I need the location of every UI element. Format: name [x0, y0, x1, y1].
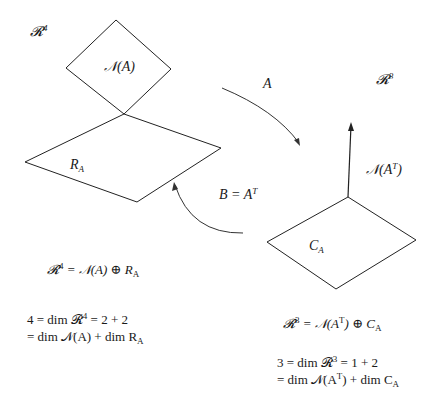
r4-label: 𝓡4: [30, 25, 48, 39]
left-dimension-line-1: 4 = dim 𝓡4 = 2 + 2: [27, 312, 128, 328]
nullspace-label: 𝒩(A): [104, 60, 135, 74]
backward-map-label: B = AT: [219, 188, 257, 202]
forward-arrowhead-icon: [294, 138, 300, 146]
left-nullspace-label: 𝒩(AT): [366, 163, 402, 177]
r3-label: 𝓡3: [376, 73, 394, 87]
left-nullspace-vector: [348, 125, 351, 197]
colspace-label: CA: [309, 239, 324, 253]
forward-map-arrow: [222, 88, 299, 143]
right-dimension-line-2: = dim 𝒩(AT) + dim CA: [277, 372, 399, 388]
rowspace-label: RA: [70, 158, 84, 172]
right-dimension-line-1: 3 = dim 𝓡3 = 1 + 2: [277, 355, 378, 371]
right-decomposition-equation: 𝓡3 = 𝒩(AT) ⊕ CA: [283, 316, 381, 332]
left-dimension-line-2: = dim 𝒩(A) + dim RA: [27, 329, 144, 345]
forward-map-label: A: [263, 77, 272, 91]
vector-arrowhead-icon: [348, 122, 354, 131]
colspace-plane: [267, 197, 416, 289]
rowspace-plane: [25, 114, 221, 202]
left-decomposition-equation: 𝓡4 = 𝒩(A) ⊕ RA: [47, 262, 139, 278]
diagram-canvas: [0, 0, 438, 407]
